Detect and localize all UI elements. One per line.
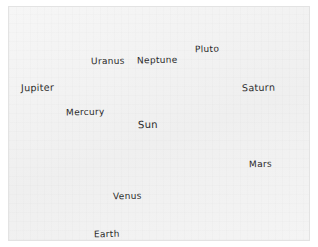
- label-mars: Mars: [249, 159, 272, 169]
- label-saturn: Saturn: [242, 82, 275, 94]
- body-mars: [253, 131, 273, 151]
- body-jupiter: [22, 26, 80, 84]
- body-pluto: [202, 24, 214, 36]
- body-saturn: [220, 21, 304, 73]
- solar-system-diagram: JupiterUranusNeptunePlutoSaturnSunMercur…: [8, 6, 310, 241]
- solar-system-canvas: [9, 7, 310, 241]
- label-pluto: Pluto: [195, 44, 219, 55]
- label-neptune: Neptune: [137, 55, 178, 66]
- label-jupiter: Jupiter: [21, 82, 54, 94]
- body-uranus: [95, 14, 128, 59]
- body-sun: [101, 80, 210, 189]
- bodies-layer: [22, 14, 304, 233]
- body-mercury: [113, 106, 123, 116]
- label-sun: Sun: [138, 119, 158, 130]
- body-neptune: [151, 26, 173, 48]
- label-mercury: Mercury: [66, 107, 105, 118]
- label-venus: Venus: [113, 191, 142, 202]
- label-uranus: Uranus: [91, 56, 125, 67]
- body-venus: [97, 178, 113, 194]
- body-earth: [73, 215, 91, 233]
- label-earth: Earth: [94, 229, 120, 240]
